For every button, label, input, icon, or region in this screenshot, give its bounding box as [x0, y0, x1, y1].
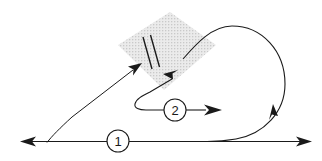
callout-1-label: 1	[114, 134, 121, 149]
right-return-loop-group	[183, 26, 285, 142]
arrowhead-into-block	[128, 63, 142, 76]
right-return-loop	[183, 26, 285, 142]
diagram-canvas: 1 2	[0, 0, 322, 161]
callout-1[interactable]: 1	[107, 130, 129, 152]
hatched-block	[118, 12, 216, 90]
arrowhead-callout-2	[204, 105, 222, 116]
callout-2[interactable]: 2	[164, 99, 186, 121]
horizontal-baseline-group	[20, 137, 312, 147]
callout-2-label: 2	[171, 103, 178, 118]
diagram-svg: 1 2	[0, 0, 322, 161]
hatched-block-group	[118, 12, 216, 90]
diagonal-incoming-group	[47, 63, 142, 143]
